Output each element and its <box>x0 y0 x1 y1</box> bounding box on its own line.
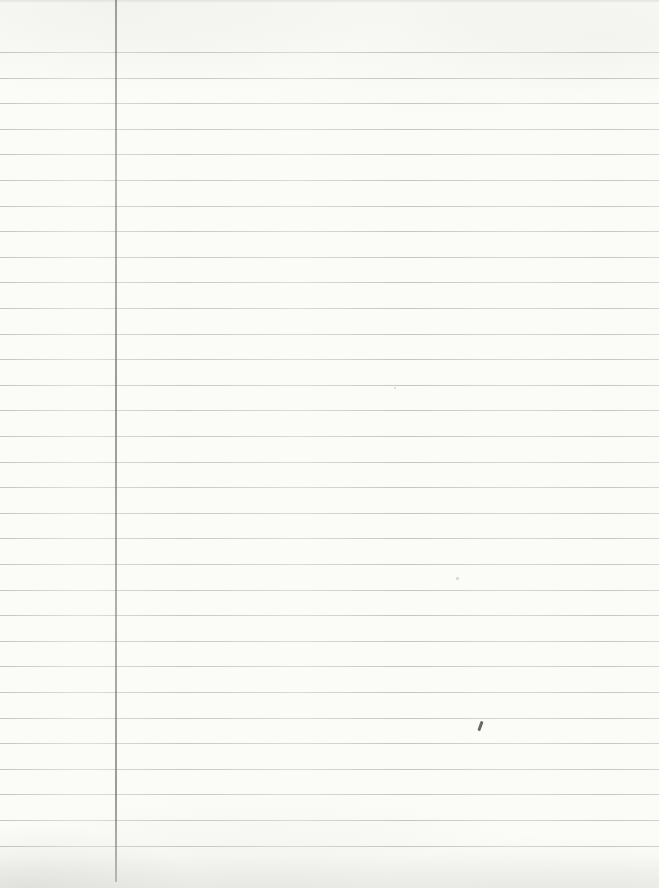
faint-speck <box>456 577 459 580</box>
pencil-tick-mark <box>477 721 483 731</box>
notebook-page <box>0 0 659 888</box>
marks-layer <box>0 0 659 888</box>
faint-speck <box>394 387 396 389</box>
